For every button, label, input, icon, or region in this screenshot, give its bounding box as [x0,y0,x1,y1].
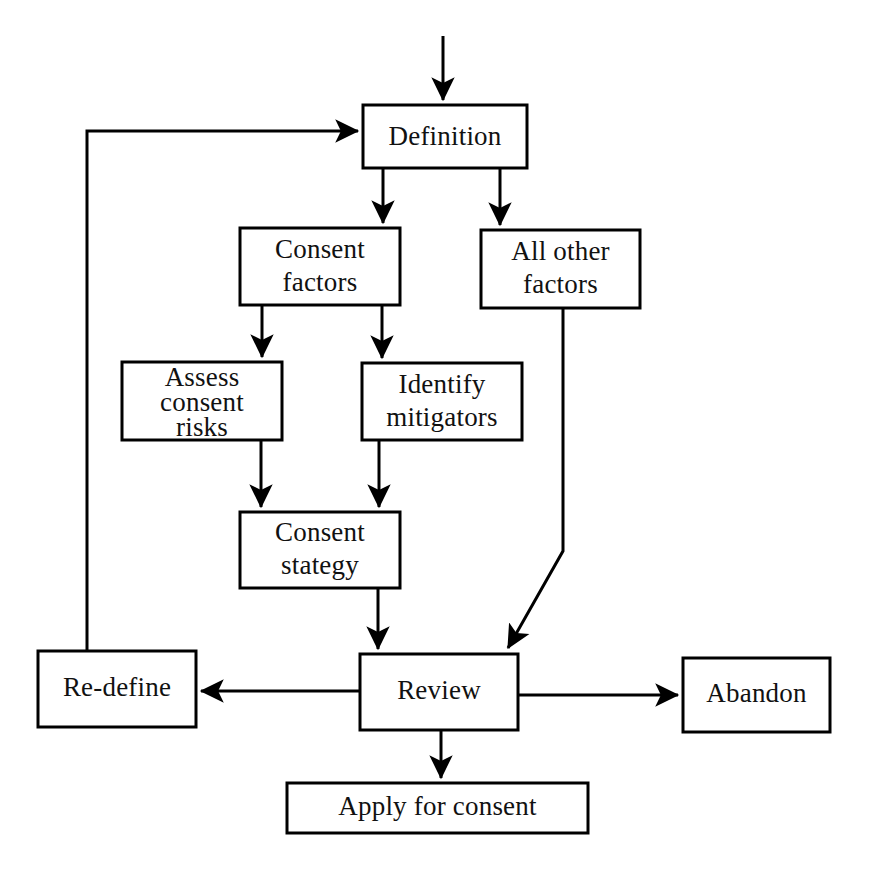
node-abandon[interactable]: Abandon [683,658,830,732]
node-all-other-factors[interactable]: All other factors [481,230,640,308]
node-definition-label: Definition [389,121,502,151]
node-re-define-label: Re-define [63,672,171,702]
edge-all-other-factors-to-review [508,308,563,648]
node-assess-consent-risks[interactable]: Assess consent risks [122,362,282,442]
flowchart-diagram: Definition Consent factors All other fac… [0,0,875,881]
node-definition[interactable]: Definition [363,105,527,168]
node-abandon-label: Abandon [706,678,807,708]
node-consent-factors-label-line2: factors [283,267,358,297]
node-assess-consent-risks-label-line3: risks [176,412,228,442]
node-consent-stategy[interactable]: Consent stategy [240,512,400,588]
node-apply-for-consent[interactable]: Apply for consent [287,783,588,833]
node-identify-mitigators-label-line2: mitigators [386,402,498,432]
node-apply-for-consent-label: Apply for consent [338,791,537,821]
node-identify-mitigators[interactable]: Identify mitigators [362,363,522,440]
node-consent-factors[interactable]: Consent factors [240,228,400,305]
node-consent-stategy-label-line1: Consent [275,517,365,547]
node-consent-stategy-label-line2: stategy [281,550,359,580]
nodes-layer: Definition Consent factors All other fac… [38,105,830,833]
flowchart-canvas: Definition Consent factors All other fac… [0,0,875,881]
node-review-label: Review [397,675,481,705]
node-all-other-factors-label-line2: factors [523,269,598,299]
node-re-define[interactable]: Re-define [38,651,196,727]
node-all-other-factors-label-line1: All other [511,236,610,266]
node-review[interactable]: Review [360,654,518,730]
node-identify-mitigators-label-line1: Identify [398,369,485,399]
node-consent-factors-label-line1: Consent [275,234,365,264]
